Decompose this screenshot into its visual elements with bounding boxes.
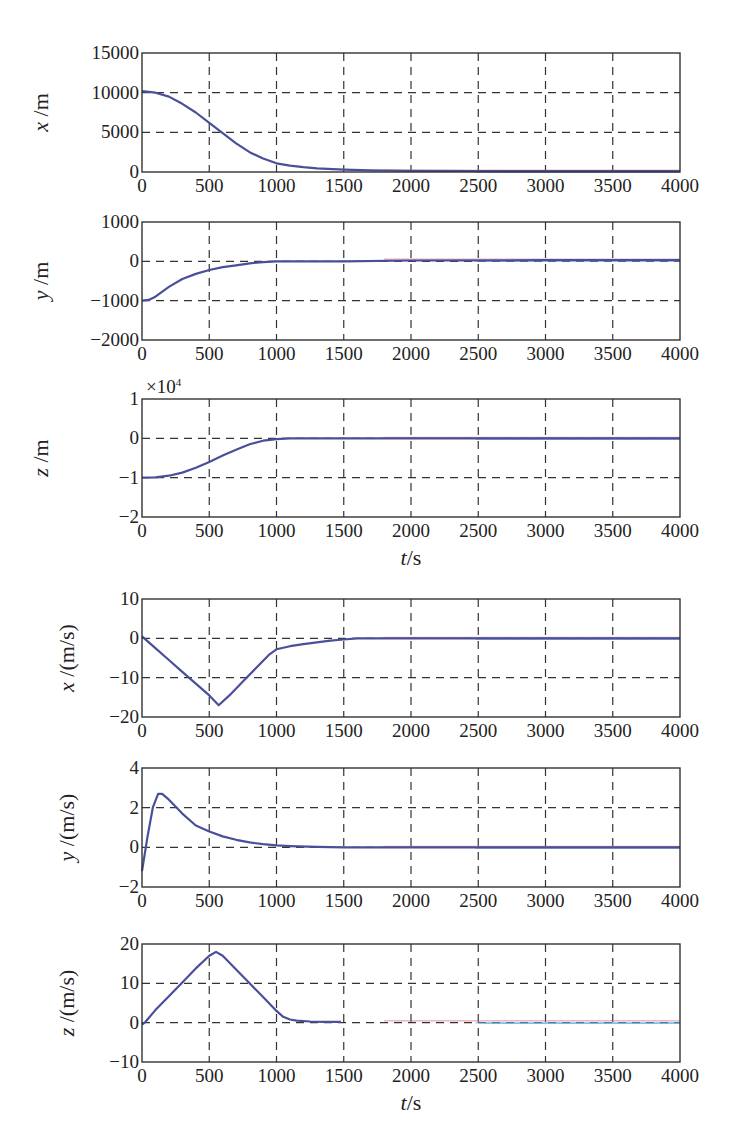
y-tick-label: −2: [119, 506, 139, 527]
y-axis-label: x /(m/s): [54, 624, 79, 693]
x-tick-label: 2000: [392, 1065, 430, 1086]
x-tick-label: 3500: [594, 520, 632, 541]
y-tick-label: 10000: [92, 82, 140, 103]
x-tick-label: 1000: [258, 720, 296, 741]
y-axis-label: x /m: [28, 93, 53, 133]
x-tick-label: 3000: [527, 343, 565, 364]
x-tick-label: 3500: [594, 890, 632, 911]
x-tick-label: 2500: [459, 1065, 497, 1086]
y-axis-label: z /m: [28, 439, 53, 477]
y-tick-label: 1000: [101, 211, 139, 232]
x-tick-label: 4000: [661, 890, 699, 911]
x-tick-label: 1500: [325, 343, 363, 364]
y-tick-label: 20: [120, 933, 139, 954]
y-tick-label: −1: [119, 467, 139, 488]
x-tick-label: 4000: [661, 175, 699, 196]
y-tick-label: −20: [109, 706, 139, 727]
x-tick-label: 500: [195, 343, 224, 364]
x-tick-label: 2000: [392, 890, 430, 911]
y-tick-label: 0: [130, 427, 140, 448]
x-tick-label: 0: [137, 720, 147, 741]
panel-position-x: 0500010000150000500100015002000250030003…: [28, 42, 699, 196]
panel-position-y: −2000−1000010000500100015002000250030003…: [28, 211, 699, 364]
x-tick-label: 1000: [258, 520, 296, 541]
y-tick-label: 0: [130, 250, 140, 271]
x-tick-label: 1000: [258, 343, 296, 364]
x-tick-label: 2500: [459, 175, 497, 196]
x-tick-label: 3000: [527, 1065, 565, 1086]
x-tick-label: 1500: [325, 720, 363, 741]
x-tick-label: 4000: [661, 343, 699, 364]
x-tick-label: 0: [137, 520, 147, 541]
x-axis-label: t/s: [401, 1090, 422, 1115]
x-tick-label: 3500: [594, 343, 632, 364]
x-tick-label: 500: [195, 1065, 224, 1086]
x-tick-label: 2500: [459, 343, 497, 364]
x-tick-label: 0: [137, 343, 147, 364]
x-tick-label: 4000: [661, 1065, 699, 1086]
x-tick-label: 500: [195, 520, 224, 541]
y-tick-label: −2: [119, 876, 139, 897]
y-tick-label: 15000: [92, 42, 140, 63]
panel-velocity-x: −20−100100500100015002000250030003500400…: [54, 588, 699, 741]
x-tick-label: 1500: [325, 890, 363, 911]
y-axis-label: z /(m/s): [54, 970, 79, 1038]
x-tick-label: 500: [195, 720, 224, 741]
x-tick-label: 1000: [258, 1065, 296, 1086]
x-tick-label: 4000: [661, 520, 699, 541]
x-tick-label: 500: [195, 175, 224, 196]
y-tick-label: 0: [130, 1012, 140, 1033]
x-tick-label: 2000: [392, 720, 430, 741]
y-tick-label: 2: [130, 797, 140, 818]
panel-velocity-z: −100102005001000150020002500300035004000…: [54, 933, 699, 1115]
x-tick-label: 3000: [527, 175, 565, 196]
series-x: [142, 91, 680, 171]
x-tick-label: 3500: [594, 175, 632, 196]
y-tick-label: −10: [109, 667, 139, 688]
y-axis-label: y /m: [28, 262, 53, 303]
x-tick-label: 2000: [392, 343, 430, 364]
x-tick-label: 3500: [594, 1065, 632, 1086]
y-axis-label: y /(m/s): [54, 794, 79, 864]
y-tick-label: 4: [130, 757, 140, 778]
x-tick-label: 2500: [459, 720, 497, 741]
y-tick-label: −2000: [90, 329, 139, 350]
x-tick-label: 2000: [392, 175, 430, 196]
x-tick-label: 2000: [392, 520, 430, 541]
y-tick-label: 0: [130, 627, 140, 648]
x-tick-label: 2500: [459, 520, 497, 541]
x-tick-label: 0: [137, 890, 147, 911]
x-tick-label: 1500: [325, 175, 363, 196]
axis-multiplier: ×104: [146, 376, 182, 397]
y-tick-label: −10: [109, 1051, 139, 1072]
figure: 0500010000150000500100015002000250030003…: [0, 0, 738, 1147]
series-vz: [142, 952, 341, 1025]
panel-position-z: −2−10105001000150020002500300035004000z …: [28, 376, 699, 570]
x-tick-label: 3500: [594, 720, 632, 741]
y-tick-label: 5000: [101, 121, 139, 142]
x-tick-label: 2500: [459, 890, 497, 911]
x-tick-label: 500: [195, 890, 224, 911]
x-tick-label: 1500: [325, 1065, 363, 1086]
panel-velocity-y: −202405001000150020002500300035004000y /…: [54, 757, 699, 911]
x-tick-label: 0: [137, 1065, 147, 1086]
x-tick-label: 4000: [661, 720, 699, 741]
y-tick-label: 0: [130, 836, 140, 857]
x-tick-label: 3000: [527, 890, 565, 911]
x-tick-label: 3000: [527, 720, 565, 741]
x-tick-label: 1000: [258, 890, 296, 911]
x-tick-label: 1500: [325, 520, 363, 541]
x-tick-label: 0: [137, 175, 147, 196]
x-tick-label: 1000: [258, 175, 296, 196]
y-tick-label: −1000: [90, 290, 139, 311]
y-tick-label: 10: [120, 972, 139, 993]
x-tick-label: 3000: [527, 520, 565, 541]
y-tick-label: 1: [130, 388, 140, 409]
x-axis-label: t/s: [401, 545, 422, 570]
y-tick-label: 10: [120, 588, 139, 609]
